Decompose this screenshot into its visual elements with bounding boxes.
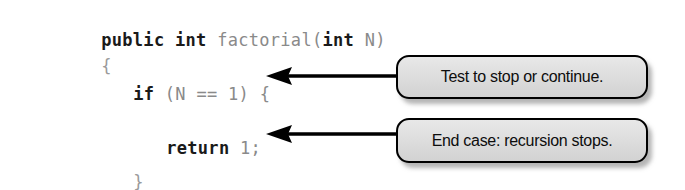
code-line-if-statement: if (N == 1) { (70, 64, 270, 124)
code-token-close-brace: } (133, 172, 144, 190)
callout-if-label: Test to stop or continue. (441, 68, 603, 86)
callout-if: Test to stop or continue. (396, 55, 648, 99)
code-token-space-1 (164, 30, 175, 50)
arrow-to-if-icon (262, 64, 402, 88)
code-token-return-value: 1; (229, 138, 261, 158)
code-token-param-n: N) (354, 30, 386, 50)
code-block: public int factorial(int N) { if (N == 1… (0, 0, 420, 190)
callout-return: End case: recursion stops. (396, 118, 648, 163)
callout-return-label: End case: recursion stops. (432, 132, 613, 150)
code-token-keyword-if: if (133, 84, 154, 104)
code-token-if-condition: (N == 1) { (154, 84, 270, 104)
code-token-keyword-return: return (166, 138, 229, 158)
arrow-to-return-icon (262, 122, 402, 146)
code-line-close-brace: } (70, 152, 144, 190)
code-token-keyword-int-1: int (175, 30, 207, 50)
code-token-method-name: factorial( (207, 30, 323, 50)
code-annotation-figure: public int factorial(int N) { if (N == 1… (0, 0, 685, 190)
code-token-keyword-int-2: int (322, 30, 354, 50)
